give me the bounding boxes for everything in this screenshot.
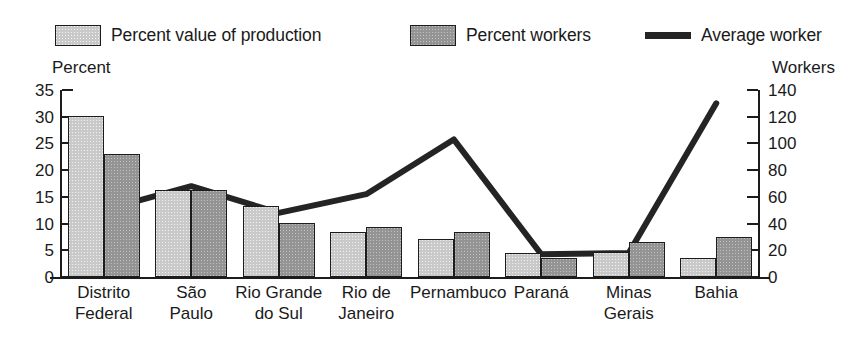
- bar: [104, 154, 140, 277]
- baseline-axis: [50, 277, 770, 279]
- category-label: Distrito Federal: [60, 282, 148, 324]
- left-axis-tick-label: 25: [35, 135, 54, 152]
- left-axis-tick-label: 35: [35, 82, 54, 99]
- chart-figure: Percent value of production Percent work…: [0, 0, 847, 339]
- bar: [279, 223, 315, 277]
- legend-label: Percent workers: [466, 25, 591, 46]
- bar: [418, 239, 454, 277]
- bar: [155, 190, 191, 277]
- right-axis-tick-label: 0: [768, 269, 777, 286]
- legend-swatch-line-icon: [645, 32, 691, 39]
- bar: [593, 252, 629, 277]
- bar: [541, 258, 577, 277]
- category-axis-labels: Distrito FederalSão PauloRio Grande do S…: [60, 282, 760, 338]
- right-axis-tick-label: 140: [768, 82, 796, 99]
- bar-group: [60, 90, 760, 277]
- bar: [629, 242, 665, 277]
- left-axis-tick-label: 0: [45, 269, 54, 286]
- right-axis-tick-label: 80: [768, 162, 787, 179]
- legend-item-average-worker: Average worker: [645, 18, 822, 52]
- bar: [243, 206, 279, 277]
- bar: [680, 258, 716, 277]
- bar: [366, 227, 402, 277]
- left-axis-tick-label: 5: [45, 242, 54, 259]
- bar: [191, 190, 227, 277]
- bar: [505, 253, 541, 277]
- category-label: Paraná: [498, 282, 586, 303]
- category-label: Rio Grande do Sul: [235, 282, 323, 324]
- right-axis-tick-label: 20: [768, 242, 787, 259]
- legend-label: Average worker: [701, 25, 822, 46]
- right-axis-tick-label: 120: [768, 109, 796, 126]
- bar: [330, 232, 366, 277]
- category-label: Rio de Janeiro: [323, 282, 411, 324]
- left-axis-tick-label: 20: [35, 162, 54, 179]
- right-axis-title: Workers: [772, 58, 835, 78]
- legend-label: Percent value of production: [111, 25, 321, 46]
- plot-area: 35302520151050 140120100806040200: [60, 90, 760, 277]
- bar: [454, 232, 490, 277]
- bar: [716, 237, 752, 277]
- category-label: São Paulo: [148, 282, 236, 324]
- legend-swatch-light-icon: [55, 25, 101, 46]
- category-label: Bahia: [673, 282, 761, 303]
- legend-item-percent-value-of-production: Percent value of production: [55, 18, 321, 52]
- left-axis-tick-label: 10: [35, 216, 54, 233]
- left-axis-tick-label: 15: [35, 189, 54, 206]
- left-axis-title: Percent: [52, 58, 111, 78]
- category-label: Minas Gerais: [585, 282, 673, 324]
- chart-legend: Percent value of production Percent work…: [0, 18, 847, 52]
- legend-swatch-dark-icon: [410, 25, 456, 46]
- right-axis-tick-label: 40: [768, 216, 787, 233]
- legend-item-percent-workers: Percent workers: [410, 18, 591, 52]
- category-label: Pernambuco: [410, 282, 498, 303]
- left-axis-tick-label: 30: [35, 109, 54, 126]
- right-axis-tick-label: 60: [768, 189, 787, 206]
- right-axis-tick-label: 100: [768, 135, 796, 152]
- bar: [68, 116, 104, 277]
